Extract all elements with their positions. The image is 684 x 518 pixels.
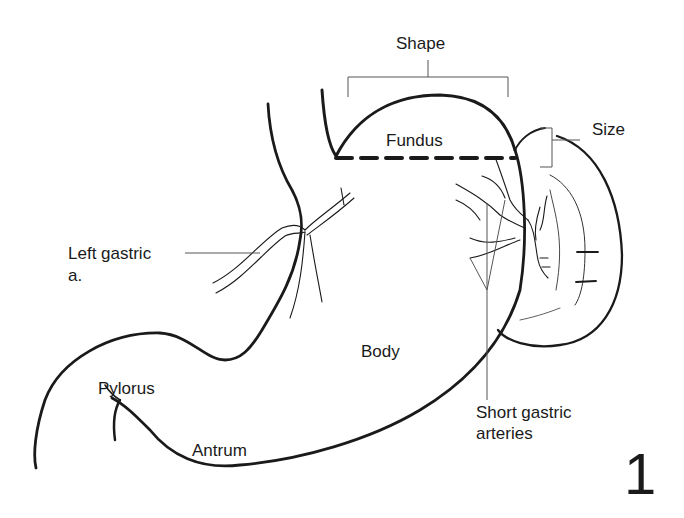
spleen-hilum xyxy=(515,128,545,150)
label-body: Body xyxy=(361,342,400,362)
label-fundus: Fundus xyxy=(386,131,443,151)
figure-number: 1 xyxy=(624,440,656,507)
stomach-diagram: Shape Size Fundus Left gastric a. Body P… xyxy=(0,0,684,518)
size-bracket xyxy=(540,128,580,167)
short-gastric-branches xyxy=(456,157,550,278)
label-pylorus: Pylorus xyxy=(98,379,155,399)
shape-bracket xyxy=(348,60,508,97)
pylorus-end xyxy=(114,400,120,440)
label-short-gastric: Short gastric xyxy=(476,403,571,423)
label-left-gastric-a: a. xyxy=(68,266,82,286)
label-short-gastric-arteries: arteries xyxy=(476,424,533,444)
label-antrum: Antrum xyxy=(192,441,247,461)
short-gastric-leader xyxy=(470,200,505,400)
greater-curvature xyxy=(112,150,525,466)
label-size: Size xyxy=(592,120,625,140)
lesser-curvature xyxy=(35,104,302,468)
label-left-gastric: Left gastric xyxy=(68,244,151,264)
label-shape: Shape xyxy=(396,34,445,54)
